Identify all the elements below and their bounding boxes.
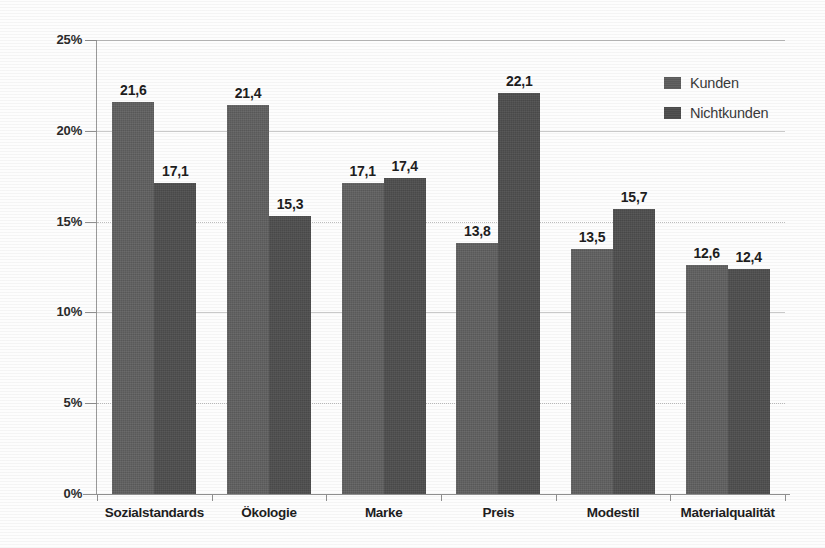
- bar[interactable]: 21,4: [227, 105, 269, 494]
- y-tick-mark: [85, 403, 97, 404]
- gridline: [97, 131, 785, 132]
- y-tick-label: 5%: [36, 395, 82, 410]
- bar-value-label: 21,4: [235, 85, 261, 101]
- y-tick-label: 0%: [36, 486, 82, 501]
- legend-item-nichtkunden[interactable]: Nichtkunden: [664, 98, 768, 128]
- y-tick-label: 25%: [36, 32, 82, 47]
- x-axis-category-label: Ökologie: [212, 505, 327, 520]
- bar[interactable]: 12,4: [728, 269, 770, 494]
- x-tick-mark: [556, 494, 557, 501]
- bar[interactable]: 15,7: [613, 209, 655, 494]
- y-tick-mark: [85, 131, 97, 132]
- bar[interactable]: 17,1: [342, 183, 384, 494]
- bar-value-label: 12,4: [735, 249, 761, 265]
- x-axis-category-label: Preis: [441, 505, 556, 520]
- x-tick-mark: [212, 494, 213, 501]
- y-tick-label: 10%: [36, 304, 82, 319]
- y-tick-label: 15%: [36, 214, 82, 229]
- x-tick-mark: [441, 494, 442, 501]
- y-axis-line: [96, 40, 97, 495]
- bar[interactable]: 17,4: [384, 178, 426, 494]
- x-axis-category-label: Modestil: [556, 505, 671, 520]
- bar-value-label: 17,1: [349, 163, 375, 179]
- x-tick-mark: [785, 494, 786, 501]
- bar[interactable]: 17,1: [154, 183, 196, 494]
- y-tick-mark: [85, 312, 97, 313]
- bar-group: 21,617,1: [112, 40, 196, 494]
- legend-label-nichtkunden: Nichtkunden: [690, 105, 768, 121]
- legend-swatch-icon-nichtkunden: [664, 107, 681, 119]
- bar-value-label: 13,8: [464, 223, 490, 239]
- bar[interactable]: 21,6: [112, 102, 154, 494]
- bar-value-label: 17,1: [162, 163, 188, 179]
- chart-page: 21,617,121,415,317,117,413,822,113,515,7…: [0, 0, 825, 548]
- gridline: [97, 222, 785, 223]
- y-tick-mark: [85, 40, 97, 41]
- x-axis-category-label: Materialqualität: [670, 505, 785, 520]
- x-tick-mark: [670, 494, 671, 501]
- gridline: [97, 312, 785, 313]
- bar-value-label: 22,1: [506, 73, 532, 89]
- chart-legend: Kunden Nichtkunden: [664, 68, 768, 128]
- legend-swatch-icon-kunden: [664, 77, 681, 89]
- bar-group: 17,117,4: [342, 40, 426, 494]
- bar-value-label: 17,4: [391, 158, 417, 174]
- y-tick-mark: [85, 222, 97, 223]
- x-tick-mark: [97, 494, 98, 501]
- x-axis-category-label: Sozialstandards: [97, 505, 212, 520]
- x-axis-line: [83, 494, 790, 495]
- bar-value-label: 13,5: [579, 229, 605, 245]
- y-tick-mark: [85, 494, 97, 495]
- legend-item-kunden[interactable]: Kunden: [664, 68, 768, 98]
- bar-group: 13,822,1: [456, 40, 540, 494]
- bar[interactable]: 12,6: [686, 265, 728, 494]
- bar[interactable]: 15,3: [269, 216, 311, 494]
- bar-value-label: 15,7: [621, 189, 647, 205]
- y-tick-label: 20%: [36, 123, 82, 138]
- bar[interactable]: 13,8: [456, 243, 498, 494]
- x-axis-category-label: Marke: [326, 505, 441, 520]
- bar-group: 21,415,3: [227, 40, 311, 494]
- gridline: [97, 403, 785, 404]
- legend-label-kunden: Kunden: [690, 75, 739, 91]
- bar[interactable]: 13,5: [571, 249, 613, 494]
- x-tick-mark: [326, 494, 327, 501]
- bar-value-label: 21,6: [120, 82, 146, 98]
- bar-value-label: 12,6: [693, 245, 719, 261]
- bar-value-label: 15,3: [277, 196, 303, 212]
- gridline: [97, 40, 785, 41]
- bar[interactable]: 22,1: [498, 93, 540, 494]
- bar-group: 13,515,7: [571, 40, 655, 494]
